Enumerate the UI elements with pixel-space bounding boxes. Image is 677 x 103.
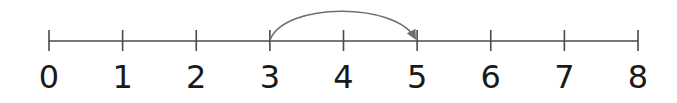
number-line-svg: 012345678 [0,0,677,103]
tick-label: 4 [333,58,353,96]
tick-label: 7 [554,58,574,96]
tick-label: 8 [628,58,648,96]
tick-label: 5 [407,58,427,96]
tick-label: 6 [481,58,501,96]
tick-label: 2 [186,58,206,96]
tick-label: 1 [112,58,132,96]
jump-arc-arrow [270,11,415,40]
tick-labels: 012345678 [39,58,648,96]
tick-label: 0 [39,58,59,96]
number-line-diagram: 012345678 [0,0,677,103]
tick-label: 3 [260,58,280,96]
